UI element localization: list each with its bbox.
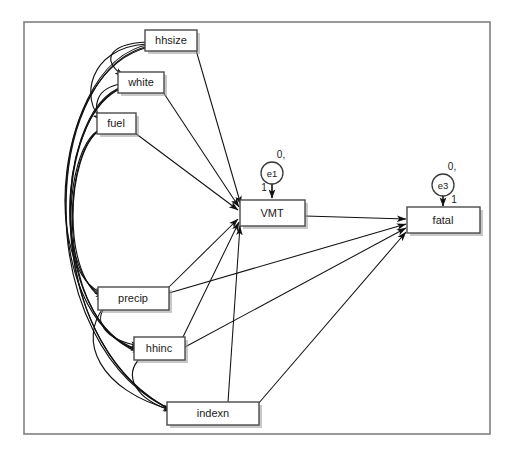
variable-label-precip: precip [118,292,148,304]
error-label-e1: e1 [267,168,278,179]
variable-node-hhsize[interactable]: hhsize [145,30,200,54]
error-loading-e1: 1 [261,182,267,193]
variable-label-hhsize: hhsize [155,34,187,46]
variable-node-fatal[interactable]: fatal [407,207,483,236]
variable-node-fuel[interactable]: fuel [97,113,139,137]
error-mean-variance-e1: 0, [277,149,285,160]
error-loading-e3: 1 [451,194,457,205]
variable-label-hhinc: hhinc [146,342,173,354]
variable-node-precip[interactable]: precip [98,287,172,313]
variable-node-vmt[interactable]: VMT [240,200,308,229]
variable-node-white[interactable]: white [118,72,167,96]
variable-node-hhinc[interactable]: hhinc [134,337,188,363]
error-label-e3: e3 [438,180,449,191]
variable-label-fuel: fuel [107,117,125,129]
variable-label-vmt: VMT [260,207,284,219]
path-diagram-svg: e1 0, 1 e3 0, 1 hhsize white [0,0,512,459]
variable-node-indexn[interactable]: indexn [167,402,262,428]
sem-path-diagram-canvas: e1 0, 1 e3 0, 1 hhsize white [0,0,512,459]
variable-label-fatal: fatal [433,214,454,226]
error-mean-variance-e3: 0, [448,161,456,172]
variable-label-indexn: indexn [197,407,229,419]
variable-label-white: white [127,76,154,88]
